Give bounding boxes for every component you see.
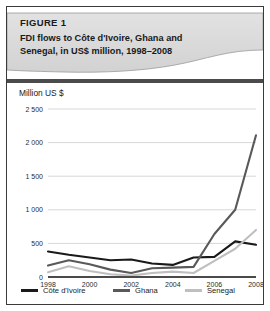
y-axis-tick-label: 2 000 [25, 139, 43, 146]
legend-label-cote-divoire: Côte d'Ivoire [43, 286, 85, 295]
legend-item-senegal: Senegal [185, 283, 235, 297]
y-axis-tick-labels: 05001 0001 5002 0002 500 [25, 106, 43, 281]
y-axis-tick-label: 1 500 [25, 173, 43, 180]
chart-area: Million US $ 05001 0001 5002 0002 500 19… [7, 83, 263, 304]
y-axis-tick-label: 500 [31, 240, 43, 247]
figure-header: FIGURE 1 FDI flows to Côte d'Ivoire, Gha… [7, 7, 263, 79]
chart-legend: Côte d'Ivoire Ghana Senegal [7, 283, 263, 303]
series-line [48, 135, 256, 273]
figure-caption-line-1: FDI flows to Côte d'Ivoire, Ghana and [20, 33, 182, 43]
legend-swatch-senegal [185, 289, 202, 292]
figure-label: FIGURE 1 [20, 17, 252, 29]
data-series-lines [48, 135, 256, 275]
y-axis-tick-label: 2 500 [25, 106, 43, 113]
y-axis-tick-label: 1 000 [25, 206, 43, 213]
y-axis-tick-label: 0 [39, 274, 43, 281]
legend-swatch-cote-divoire [21, 289, 38, 292]
legend-swatch-ghana [113, 289, 130, 292]
legend-label-ghana: Ghana [135, 286, 158, 295]
figure-header-text: FIGURE 1 FDI flows to Côte d'Ivoire, Gha… [20, 17, 252, 57]
legend-item-cote-divoire: Côte d'Ivoire [21, 283, 85, 297]
figure-container: FIGURE 1 FDI flows to Côte d'Ivoire, Gha… [6, 6, 264, 305]
line-chart-plot: 05001 0001 5002 0002 500 199820002002200… [7, 83, 263, 304]
figure-caption-line-2: Senegal, in US$ million, 1998–2008 [20, 46, 172, 56]
figure-caption: FDI flows to Côte d'Ivoire, Ghana and Se… [20, 32, 252, 57]
legend-label-senegal: Senegal [207, 286, 235, 295]
legend-item-ghana: Ghana [113, 283, 158, 297]
